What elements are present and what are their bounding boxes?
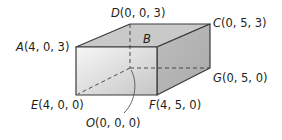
point-label-c: C(0, 5, 3)	[213, 16, 267, 30]
point-label-a: A(4, 0, 3)	[15, 40, 69, 54]
point-a-coords: (4, 0, 3)	[24, 40, 70, 54]
point-label-d: D(0, 0, 3)	[111, 6, 165, 20]
point-d-name: D	[111, 6, 120, 20]
point-d-coords: (0, 0, 3)	[120, 6, 166, 20]
point-g-name: G	[213, 71, 222, 85]
point-a-name: A	[15, 40, 24, 54]
point-label-g: G(0, 5, 0)	[213, 71, 267, 85]
point-o-coords: (0, 0, 0)	[95, 116, 141, 130]
point-label-o: O(0, 0, 0)	[86, 116, 141, 130]
front-face	[76, 47, 157, 95]
point-label-f: F(4, 5, 0)	[149, 98, 201, 112]
point-g-coords: (0, 5, 0)	[222, 71, 268, 85]
face-label-b: B	[143, 32, 151, 46]
point-f-coords: (4, 5, 0)	[156, 98, 202, 112]
rectangular-prism-diagram: B D(0, 0, 3) C(0, 5, 3) A(4, 0, 3) G(0, …	[0, 0, 282, 140]
point-label-e: E(4, 0, 0)	[31, 98, 84, 112]
point-c-name: C	[213, 16, 221, 30]
point-e-coords: (4, 0, 0)	[38, 98, 84, 112]
point-o-name: O	[86, 116, 95, 130]
point-c-coords: (0, 5, 3)	[221, 16, 267, 30]
